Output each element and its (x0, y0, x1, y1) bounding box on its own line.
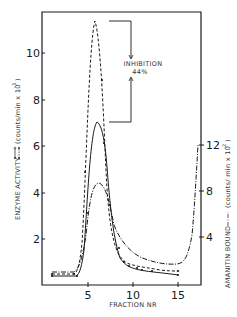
right-axis-unit: (counts/ min x 10 (224, 146, 232, 208)
y-left-tick-2: 2 (33, 233, 40, 246)
right-axis-close-paren: ) (224, 139, 232, 142)
left-axis-exp: -3 (11, 82, 17, 88)
y-right-tick-4: 4 (206, 231, 213, 244)
x-axis: 5 10 15 FRACTION NR (85, 282, 186, 309)
x-tick-5: 5 (85, 289, 92, 302)
y-left-tick-10: 10 (26, 47, 40, 60)
fraction-chart: 2 4 6 8 10 4 8 12 5 10 15 FRACTION NR EN… (0, 0, 237, 317)
y-left-tick-8: 8 (33, 94, 40, 107)
series-dashdot-amanitin (52, 145, 198, 272)
y-left-tick-6: 6 (33, 140, 40, 153)
annotation-line1: INHIBITION (124, 60, 163, 68)
annotation-line2: 44% (132, 68, 147, 76)
left-axis-unit: (counts/min x 10 (14, 84, 22, 144)
y-right-tick-12: 12 (206, 139, 220, 152)
plot-frame (42, 12, 201, 285)
y-left-tick-4: 4 (33, 187, 40, 200)
left-axis-close-paren: ) (14, 78, 22, 81)
right-axis-exp: -2 (221, 143, 227, 149)
x-tick-15: 15 (171, 289, 185, 302)
legend-enzyme-symbol (14, 147, 20, 159)
inhibition-annotation: INHIBITION 44% (109, 21, 162, 122)
y-right-tick-8: 8 (206, 185, 213, 198)
right-y-axis: 4 8 12 (199, 139, 220, 244)
series-solid-inhibited (52, 122, 178, 276)
data-points (51, 79, 179, 277)
x-axis-label: FRACTION NR (109, 301, 157, 309)
left-axis-name: ENZYME ACTIVITY (14, 157, 22, 220)
right-axis-name: AMANITIN BOUND (224, 226, 232, 288)
left-axis-label: ENZYME ACTIVITY (counts/min x 10 -3 ) (11, 78, 22, 220)
right-axis-label: AMANITIN BOUND (counts/ min x 10 -2 ) (221, 139, 232, 288)
